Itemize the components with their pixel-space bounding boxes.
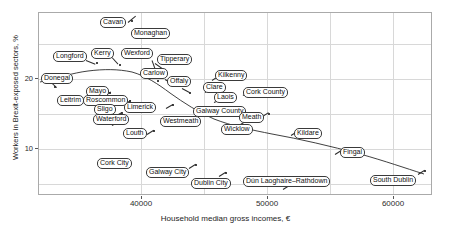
point-label-limerick[interactable]: Limerick: [124, 102, 156, 113]
point-label-leitrim[interactable]: Leitrim: [57, 95, 84, 106]
point-label-longford[interactable]: Longford: [53, 51, 87, 62]
point-label-louth[interactable]: Louth: [123, 128, 147, 139]
x-axis-title: Household median gross incomes, €: [0, 214, 451, 223]
point-label-wicklow[interactable]: Wicklow: [221, 124, 253, 135]
point-label-carlow[interactable]: Carlow: [140, 68, 168, 79]
point-label-monaghan[interactable]: Monaghan: [131, 28, 170, 39]
point-label-meath[interactable]: Meath: [239, 112, 264, 123]
point-label-galway-city[interactable]: Galway City: [146, 167, 189, 178]
ytick-mark-20: [35, 78, 38, 79]
point-label-donegal[interactable]: Donegal: [41, 73, 73, 84]
gridline-y-24: [39, 44, 431, 45]
data-point: [119, 64, 121, 66]
point-label-kerry[interactable]: Kerry: [91, 48, 114, 59]
gridline-x-45000: [204, 13, 205, 194]
y-axis-title: Workers in Brexit-exposed sectors, %: [11, 35, 20, 160]
xtick-label-60000: 60000: [363, 199, 423, 208]
point-label-westmeath[interactable]: Westmeath: [160, 116, 201, 127]
gridline-x-60000: [393, 13, 394, 194]
gridline-y-12: [39, 149, 431, 150]
gridline-x-55000: [330, 13, 331, 194]
point-label-kildare[interactable]: Kildare: [294, 128, 322, 139]
point-label-dun-laoghaire[interactable]: Dún Laoghaire–Rathdown: [243, 176, 330, 187]
data-point: [157, 80, 159, 82]
point-label-south-dublin[interactable]: South Dublin: [370, 175, 416, 186]
point-label-dublin-city[interactable]: Dublin City: [191, 178, 231, 189]
data-point: [96, 62, 98, 64]
ytick-mark-10: [35, 148, 38, 149]
xtick-label-50000: 50000: [237, 199, 297, 208]
point-label-waterford[interactable]: Waterford: [93, 114, 129, 125]
point-label-kilkenny[interactable]: Kilkenny: [215, 70, 247, 81]
point-label-offaly[interactable]: Offaly: [167, 76, 191, 87]
point-label-wexford[interactable]: Wexford: [121, 48, 153, 59]
scatter-chart: 20 10 40000 50000 60000 Household median…: [0, 0, 451, 235]
point-label-cork-county[interactable]: Cork County: [243, 87, 288, 98]
point-label-fingal[interactable]: Fingal: [340, 147, 365, 158]
gridline-x-50000: [267, 13, 268, 194]
point-label-cork-city[interactable]: Cork City: [97, 158, 132, 169]
point-label-laois[interactable]: Laois: [214, 92, 237, 103]
point-label-tipperary[interactable]: Tipperary: [157, 54, 192, 65]
xtick-label-40000: 40000: [111, 199, 171, 208]
point-label-cavan[interactable]: Cavan: [100, 17, 126, 28]
